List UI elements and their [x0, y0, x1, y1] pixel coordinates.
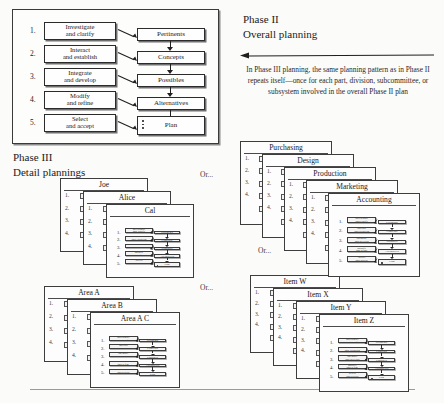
phase2-heading-line1: Phase II — [243, 12, 317, 27]
mini-flow-arrow-down-icon — [167, 258, 168, 261]
mini-plan-box: Plan — [139, 372, 166, 377]
mini-step-number: 3. — [339, 238, 342, 243]
plan-card-step-numbers: 1.2.3.4. — [72, 314, 76, 366]
mini-step-box: Integrateand develop — [338, 355, 367, 360]
mini-flow-arrow-down-icon — [152, 359, 153, 362]
plan-box: Plan — [137, 116, 205, 135]
mini-step-box: Interactand establish — [125, 236, 153, 241]
mini-step-number: 1. — [339, 219, 342, 224]
output-box: Possibles — [137, 74, 205, 87]
mini-step-number: 3. — [117, 245, 120, 250]
mini-step-number: 1. — [101, 338, 104, 343]
plan-card-step-numbers: 1.2.3.4. — [311, 195, 315, 243]
mini-flow-arrow-down-icon — [392, 224, 393, 227]
plan-card-title: Item Y — [297, 303, 385, 312]
plan-card-step-numbers: 1.2.3.4. — [245, 156, 249, 204]
phase2-heading-line2: Overall planning — [243, 27, 317, 42]
plan-card-step-numbers: 1.2.3.4. — [49, 301, 53, 353]
mini-plan-bullets-icon — [371, 378, 373, 380]
plan-card-step-numbers: 1.2.3.4. — [65, 193, 69, 243]
plan-card[interactable]: Cal1.Investigateand clarify2.Interactand… — [106, 204, 194, 278]
step-line2: and establish — [63, 53, 97, 60]
mini-step-box: Integrateand develop — [125, 244, 153, 249]
mini-flow-arrow-down-icon — [392, 234, 393, 237]
mini-step-box: Investigateand clarify — [338, 338, 367, 343]
output-box: Pertinents — [137, 28, 205, 41]
plan-card[interactable]: Accounting1.Investigateand clarify2.Inte… — [328, 193, 420, 277]
mini-plan-bullets-icon — [381, 262, 383, 264]
plan-card-body: 1.Investigateand clarify2.Interactand es… — [109, 214, 191, 276]
mini-step-box: Modifyand refine — [109, 361, 138, 366]
mini-step-number: 2. — [101, 346, 104, 351]
mini-plan-bullets-icon — [157, 265, 159, 266]
figure-page: 1.Investigateand clarify2.Interactand es… — [0, 0, 444, 403]
step-box: Integrateand develop — [44, 68, 116, 86]
plan-card-title: Joe — [61, 180, 147, 189]
mini-step-box: Investigateand clarify — [347, 217, 376, 223]
mini-step-box: Integrateand develop — [347, 237, 376, 243]
phase3-heading-line2: Detail plannings — [13, 165, 85, 180]
plan-card-title: Production — [285, 169, 375, 178]
mini-plan-label: Plan — [379, 376, 384, 379]
plan-card-body: 1.Investigateand clarify2.Interactand es… — [331, 203, 417, 275]
step-number: 2. — [30, 49, 36, 58]
mini-step-number: 4. — [117, 253, 120, 258]
plan-card-title: Item X — [274, 290, 362, 299]
plan-card-step-numbers: 1.2.3.4. — [255, 290, 259, 333]
mini-plan-label: Plan — [150, 373, 155, 376]
mini-plan-label: Plan — [164, 263, 169, 266]
mini-step-number: 2. — [330, 348, 333, 353]
plan-card-body: 1.Investigateand clarify2.Interactand es… — [322, 324, 406, 390]
plan-card-body: 1.Investigateand clarify2.Interactand es… — [93, 322, 177, 386]
mini-flow-arrow-down-icon — [167, 234, 168, 237]
mini-flow-arrow-down-icon — [152, 367, 153, 370]
flow-arrow-down-icon — [170, 87, 171, 93]
mini-flow-arrow-down-icon — [167, 250, 168, 253]
plan-card-step-numbers: 1.2.3.4. — [88, 206, 92, 256]
step-number: 3. — [30, 72, 36, 81]
output-box: Concepts — [137, 51, 205, 64]
plan-card[interactable]: Area A C1.Investigateand clarify2.Intera… — [90, 312, 180, 388]
mini-step-number: 5. — [117, 261, 120, 266]
mini-step-box: Selectand accept — [109, 369, 138, 374]
mini-flow-arrow-down-icon — [152, 351, 153, 354]
mini-flow-arrow-down-icon — [381, 345, 382, 348]
mini-step-number: 4. — [101, 362, 104, 367]
flow-arrow-icon — [118, 98, 137, 107]
left-arrow-icon — [240, 52, 434, 60]
mini-flow-arrow-down-icon — [167, 242, 168, 245]
mini-flow-arrow-down-icon — [152, 342, 153, 345]
mini-step-number: 4. — [330, 365, 333, 370]
mini-flow-arrow-down-icon — [381, 370, 382, 373]
step-number: 1. — [30, 26, 36, 35]
mini-step-box: Selectand accept — [338, 372, 367, 377]
mini-step-box: Investigateand clarify — [109, 336, 138, 341]
or-label-bottom: Or... — [200, 283, 213, 292]
step-number: 4. — [30, 95, 36, 104]
mini-step-box: Modifyand refine — [347, 246, 376, 252]
flow-arrow-icon — [118, 121, 137, 130]
plan-card[interactable]: Item Z1.Investigateand clarify2.Interact… — [319, 314, 409, 392]
mini-plan-label: Plan — [389, 260, 394, 263]
step-box: Interactand establish — [44, 45, 116, 63]
mini-step-box: Interactand establish — [347, 227, 376, 233]
output-box: Alternatives — [137, 97, 205, 110]
phase3-heading: Phase III Detail plannings — [13, 150, 85, 179]
phase3-heading-line1: Phase III — [13, 150, 85, 165]
mini-step-number: 3. — [101, 354, 104, 359]
step-line2: and refine — [67, 99, 94, 106]
mini-step-number: 2. — [339, 228, 342, 233]
mini-diagram: 1.Investigateand clarify2.Interactand es… — [109, 214, 189, 275]
mini-step-number: 2. — [117, 237, 120, 242]
mini-step-box: Selectand accept — [125, 259, 153, 264]
step-box: Investigateand clarify — [44, 22, 116, 40]
plan-card-step-numbers: 1.2.3.4. — [267, 169, 271, 217]
plan-card-title: Item W — [251, 277, 339, 286]
plan-card-step-numbers: 1.2.3.4. — [278, 303, 282, 346]
plan-card-title: Marketing — [307, 182, 397, 191]
or-label-middle: Or... — [258, 246, 271, 255]
plan-card-step-numbers: 1.2.3.4. — [301, 316, 305, 359]
step-box: Modifyand refine — [44, 91, 116, 109]
step-line2: and develop — [64, 76, 96, 83]
mini-step-number: 5. — [330, 374, 333, 379]
